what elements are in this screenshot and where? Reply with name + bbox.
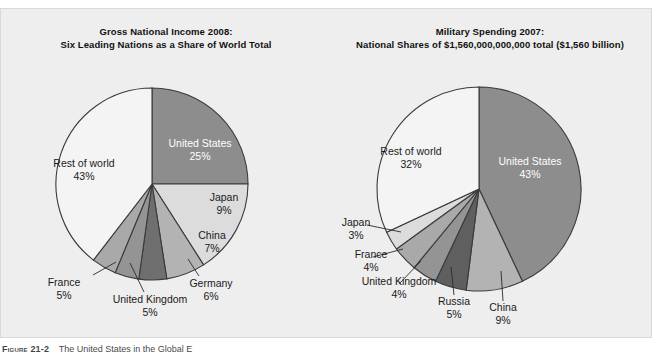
slice-label-rest-of-world-left: Rest of world 43% [40, 157, 128, 182]
slice-label-china-right: China 9% [479, 301, 527, 326]
slice-label-rest-of-world-right: Rest of world 32% [367, 145, 455, 170]
slice-label-value: 7% [189, 242, 235, 255]
slice-label-name: China [198, 229, 225, 241]
slice-label-name: United States [498, 155, 561, 167]
slice-label-value: 32% [367, 158, 455, 171]
pie-chart-military-spending: Military Spending 2007: National Shares … [329, 9, 651, 339]
slice-label-value: 5% [429, 308, 479, 321]
slice-label-name: Japan [210, 191, 239, 203]
pie-slices-right [377, 87, 581, 291]
slice-label-value: 9% [199, 204, 249, 217]
slice-label-value: 5% [104, 306, 196, 319]
slice-label-value: 9% [479, 314, 527, 327]
slice-label-name: France [355, 248, 388, 260]
slice-label-name: United Kingdom [362, 275, 437, 287]
slice-label-united-kingdom-left: United Kingdom 5% [104, 293, 196, 318]
slice-label-value: 4% [345, 261, 397, 274]
slice-label-name: Japan [342, 216, 371, 228]
figure-caption: Figure 21-2 The United States in the Glo… [2, 344, 192, 354]
slice-label-name: United Kingdom [113, 293, 188, 305]
slice-label-united-kingdom-right: United Kingdom 4% [352, 275, 446, 300]
slice-united-states[interactable] [152, 88, 248, 184]
slice-label-china-left: China 7% [189, 229, 235, 254]
slice-label-name: China [489, 301, 516, 313]
figure-caption-text: The United States in the Global E [59, 344, 193, 354]
figure-image-panel: Gross National Income 2008: Six Leading … [0, 8, 652, 338]
slice-label-united-states-right: United States 43% [481, 155, 579, 180]
slice-label-japan-right: Japan 3% [331, 216, 381, 241]
slice-label-value: 5% [37, 289, 91, 302]
slice-label-value: 25% [151, 150, 249, 163]
slice-label-name: Rest of world [53, 157, 114, 169]
slice-label-united-states-left: United States 25% [151, 137, 249, 162]
figure-container: Gross National Income 2008: Six Leading … [0, 0, 658, 363]
slice-label-value: 4% [352, 288, 446, 301]
slice-label-value: 43% [40, 170, 128, 183]
figure-caption-number: Figure 21-2 [2, 344, 49, 354]
slice-label-value: 3% [331, 229, 381, 242]
slice-label-japan-left: Japan 9% [199, 191, 249, 216]
slice-label-name: Rest of world [380, 145, 441, 157]
slice-label-name: Germany [189, 277, 232, 289]
slice-label-name: United States [168, 137, 231, 149]
slice-label-value: 43% [481, 168, 579, 181]
slice-label-france-left: France 5% [37, 276, 91, 301]
pie-chart-gross-national-income: Gross National Income 2008: Six Leading … [3, 9, 329, 339]
slice-label-name: France [48, 276, 81, 288]
slice-label-france-right: France 4% [345, 248, 397, 273]
